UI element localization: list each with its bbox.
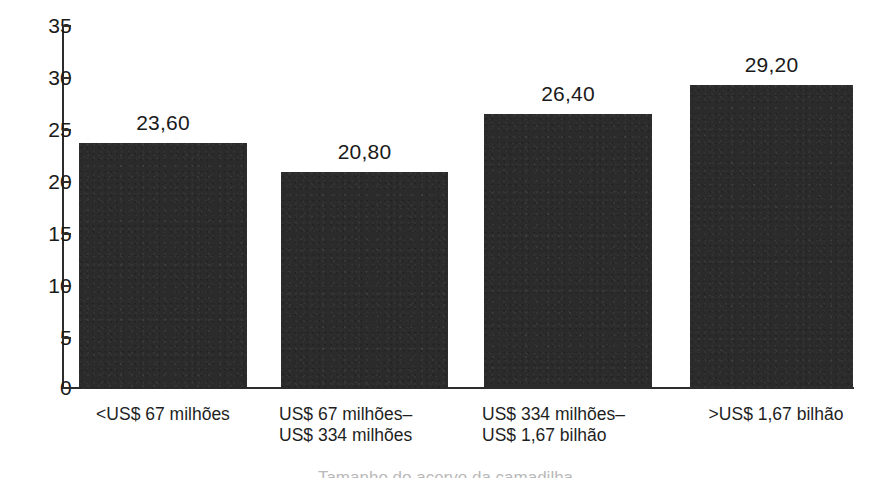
y-tick-mark-30: [62, 77, 71, 79]
category-label-3-line-1: US$ 334 milhões–: [482, 404, 676, 425]
category-label-3-line-2: US$ 1,67 bilhão: [482, 425, 676, 446]
category-label-1-line-1: <US$ 67 milhões: [55, 404, 271, 425]
category-label-4-line-1: >US$ 1,67 bilhão: [668, 404, 884, 425]
category-label-2-line-1: US$ 67 milhões–: [279, 404, 473, 425]
category-label-2: US$ 67 milhões– US$ 334 milhões: [257, 404, 473, 446]
bar-chart-figure: 35 30 25 20 15 10 5 0 23,60 20,80 26,40 …: [0, 0, 891, 478]
category-label-1: <US$ 67 milhões: [55, 404, 271, 425]
bar-4[interactable]: [690, 85, 853, 388]
y-tick-mark-20: [62, 181, 71, 183]
bar-value-1: 23,60: [79, 112, 247, 133]
y-tick-30: 30: [0, 77, 72, 79]
y-tick-10: 10: [0, 285, 72, 287]
bar-value-3: 26,40: [484, 83, 652, 104]
y-tick-mark-10: [62, 285, 71, 287]
bar-2[interactable]: [281, 172, 448, 388]
y-tick-15: 15: [0, 233, 72, 235]
bar-3[interactable]: [484, 114, 652, 388]
bar-1[interactable]: [79, 143, 247, 388]
bar-value-4: 29,20: [690, 54, 853, 75]
y-tick-mark-5: [62, 337, 71, 339]
category-label-3: US$ 334 milhões– US$ 1,67 bilhão: [460, 404, 676, 446]
bar-value-2: 20,80: [281, 141, 448, 162]
y-tick-mark-15: [62, 233, 71, 235]
y-tick-20: 20: [0, 181, 72, 183]
category-label-4: >US$ 1,67 bilhão: [668, 404, 884, 425]
y-tick-mark-25: [62, 129, 71, 131]
y-tick-35: 35: [0, 25, 72, 27]
y-tick-5: 5: [0, 337, 72, 339]
y-tick-25: 25: [0, 129, 72, 131]
category-label-2-line-2: US$ 334 milhões: [279, 425, 473, 446]
y-tick-mark-35: [62, 25, 71, 27]
footer-caption: Tamanho do acervo da camadilha: [0, 468, 891, 478]
